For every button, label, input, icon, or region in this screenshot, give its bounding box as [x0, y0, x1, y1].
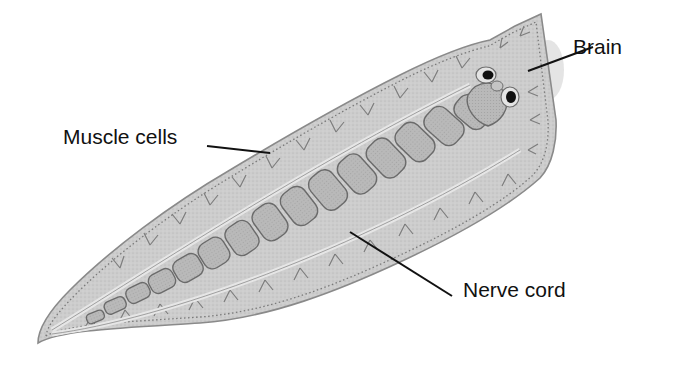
label-brain: Brain [573, 36, 622, 57]
label-nerve-cord: Nerve cord [463, 279, 566, 300]
left-eyespot-icon [483, 71, 494, 80]
muscle-cells-leader-line [207, 146, 270, 153]
flatworm-diagram: Brain Muscle cells Nerve cord [0, 0, 682, 382]
label-muscle-cells: Muscle cells [63, 126, 177, 147]
brain-ganglion [491, 81, 503, 91]
right-eyespot-icon [506, 91, 516, 103]
